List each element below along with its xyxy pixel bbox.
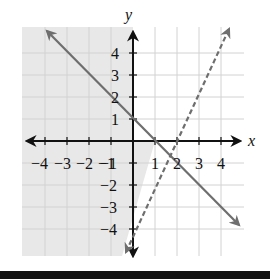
x-tick-neg2: −2: [76, 155, 93, 172]
x-tick-neg3: −3: [54, 155, 71, 172]
x-tick-3: 3: [195, 155, 203, 172]
x-tick-2: 2: [173, 155, 181, 172]
x-tick-neg1: −1: [98, 155, 115, 172]
y-tick-neg3: −3: [100, 199, 117, 216]
x-tick-neg4: −4: [31, 155, 48, 172]
bottom-border: [0, 271, 270, 279]
y-tick-2: 2: [111, 89, 119, 106]
y-tick-3: 3: [111, 67, 119, 84]
x-axis-label: x: [247, 132, 255, 149]
y-axis-label: y: [123, 6, 133, 24]
y-tick-neg2: −2: [100, 177, 117, 194]
y-tick-1: 1: [111, 111, 119, 128]
y-tick-neg4: −4: [100, 221, 117, 238]
x-tick-1: 1: [151, 155, 159, 172]
x-tick-4: 4: [217, 155, 225, 172]
y-tick-4: 4: [111, 45, 119, 62]
graph: y x 4 3 2 1 −1 −2 −3 −4 −4 −3 −2 −1 1 2 …: [0, 0, 270, 279]
